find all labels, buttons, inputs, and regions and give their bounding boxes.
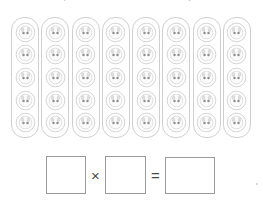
animal-face-counter-icon: [15, 44, 36, 65]
animal-face-counter-icon: [166, 44, 187, 65]
group-column[interactable]: [41, 17, 69, 138]
animal-face-counter-icon: [15, 90, 36, 111]
animal-face-counter-icon: [136, 44, 157, 65]
animal-face-counter-icon: [226, 44, 247, 65]
animal-face-counter-icon: [166, 90, 187, 111]
animal-face-counter-icon: [226, 67, 247, 88]
multiplication-sign: ×: [86, 168, 105, 183]
animal-face-counter-icon: [15, 112, 36, 133]
group-column[interactable]: [193, 17, 221, 138]
counter-array: [11, 17, 251, 138]
factor-a-answer-box[interactable]: [46, 156, 86, 194]
animal-face-counter-icon: [75, 67, 96, 88]
animal-face-counter-icon: [45, 112, 66, 133]
animal-face-counter-icon: [226, 90, 247, 111]
animal-face-counter-icon: [105, 44, 126, 65]
animal-face-counter-icon: [196, 67, 217, 88]
instruction-text: Write a multiplication sentence for the …: [11, 0, 195, 2]
instruction-clip-region: Write a multiplication sentence for the …: [0, 0, 263, 9]
factor-b-answer-box[interactable]: [105, 156, 146, 194]
group-column[interactable]: [102, 17, 130, 138]
animal-face-counter-icon: [75, 44, 96, 65]
animal-face-counter-icon: [45, 67, 66, 88]
group-column[interactable]: [162, 17, 190, 138]
animal-face-counter-icon: [45, 44, 66, 65]
group-column[interactable]: [11, 17, 39, 138]
animal-face-counter-icon: [75, 112, 96, 133]
equals-sign: =: [146, 168, 165, 183]
animal-face-counter-icon: [166, 67, 187, 88]
animal-face-counter-icon: [75, 22, 96, 43]
animal-face-counter-icon: [136, 67, 157, 88]
animal-face-counter-icon: [45, 90, 66, 111]
animal-face-counter-icon: [105, 67, 126, 88]
animal-face-counter-icon: [75, 90, 96, 111]
product-answer-box[interactable]: [165, 157, 215, 194]
animal-face-counter-icon: [136, 90, 157, 111]
page-edge-artifact: [256, 183, 258, 185]
animal-face-counter-icon: [45, 22, 66, 43]
group-column[interactable]: [223, 17, 251, 138]
group-column[interactable]: [132, 17, 160, 138]
animal-face-counter-icon: [15, 22, 36, 43]
animal-face-counter-icon: [226, 22, 247, 43]
worksheet-page: Write a multiplication sentence for the …: [0, 0, 263, 200]
animal-face-counter-icon: [105, 90, 126, 111]
animal-face-counter-icon: [196, 90, 217, 111]
animal-face-counter-icon: [136, 112, 157, 133]
animal-face-counter-icon: [166, 22, 187, 43]
animal-face-counter-icon: [166, 112, 187, 133]
animal-face-counter-icon: [196, 22, 217, 43]
group-column[interactable]: [72, 17, 100, 138]
animal-face-counter-icon: [105, 112, 126, 133]
animal-face-counter-icon: [196, 44, 217, 65]
animal-face-counter-icon: [136, 22, 157, 43]
animal-face-counter-icon: [226, 112, 247, 133]
animal-face-counter-icon: [105, 22, 126, 43]
multiplication-sentence: × =: [46, 155, 216, 195]
animal-face-counter-icon: [15, 67, 36, 88]
animal-face-counter-icon: [196, 112, 217, 133]
